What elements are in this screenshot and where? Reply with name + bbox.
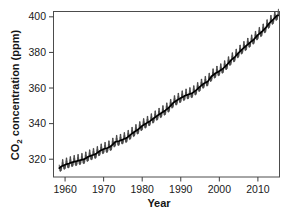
y-tick-label: 380 [28, 46, 46, 58]
x-tick-label: 2000 [208, 183, 232, 195]
x-tick-label: 1960 [53, 183, 77, 195]
y-tick-label: 340 [28, 117, 46, 129]
figure-container: 320340360380400 196019701980199020002010… [0, 0, 291, 222]
y-tick-label: 320 [28, 153, 46, 165]
y-axis-title-prefix: CO [9, 143, 21, 160]
x-tick-label: 1990 [169, 183, 193, 195]
x-axis-title: Year [147, 197, 171, 209]
y-tick-label: 400 [28, 10, 46, 22]
y-axis-title-suffix: concentration (ppm) [9, 29, 21, 139]
co2-line-chart: 320340360380400 196019701980199020002010… [0, 0, 291, 222]
x-tick-label: 2010 [246, 183, 270, 195]
y-tick-label: 360 [28, 82, 46, 94]
x-tick-label: 1970 [92, 183, 116, 195]
x-tick-label: 1980 [131, 183, 155, 195]
